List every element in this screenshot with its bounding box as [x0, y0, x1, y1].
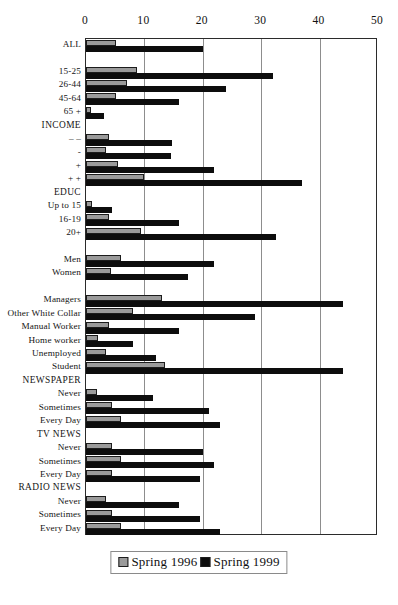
legend-item: Spring 1999 — [201, 554, 280, 570]
category-label: NEWSPAPER — [23, 376, 81, 385]
x-tick-label: 20 — [196, 14, 208, 26]
category-label: 65 + — [64, 107, 81, 116]
bar-s1999 — [86, 355, 156, 361]
category-label: Up to 15 — [48, 201, 81, 210]
x-tick-label: 0 — [82, 14, 88, 26]
category-label: RADIO NEWS — [18, 483, 81, 492]
category-label: ALL — [63, 40, 81, 49]
category-axis-labels: ALL15-2526-4445-6465 +INCOME– –-++ +EDUC… — [0, 38, 83, 535]
category-label: Home worker — [29, 336, 81, 345]
category-label: + + — [68, 174, 81, 183]
plot-area — [85, 38, 377, 535]
bar-s1999 — [86, 220, 179, 226]
bar-s1999 — [86, 449, 203, 455]
bars-layer — [86, 39, 376, 534]
bar-s1999 — [86, 167, 214, 173]
category-label: Men — [64, 255, 81, 264]
bar-s1999 — [86, 395, 153, 401]
bar-s1999 — [86, 476, 200, 482]
category-label: + — [76, 161, 81, 170]
bar-s1999 — [86, 462, 214, 468]
bar-s1999 — [86, 301, 343, 307]
category-label: Manual Worker — [22, 322, 81, 331]
legend-item: Spring 1996 — [118, 554, 197, 570]
legend-swatch — [201, 557, 211, 567]
bar-s1999 — [86, 86, 226, 92]
category-label: Student — [52, 362, 81, 371]
category-label: Every Day — [40, 524, 81, 533]
category-label: Sometimes — [39, 403, 81, 412]
category-label: Never — [58, 497, 81, 506]
category-label: Managers — [44, 295, 81, 304]
category-label: INCOME — [42, 121, 81, 130]
bar-s1999 — [86, 314, 255, 320]
x-tick-label: 10 — [137, 14, 149, 26]
category-label: – – — [69, 134, 81, 143]
bar-s1999 — [86, 274, 188, 280]
category-label: Other White Collar — [8, 309, 81, 318]
bar-s1999 — [86, 99, 179, 105]
legend-label: Spring 1996 — [131, 554, 197, 570]
bar-s1999 — [86, 408, 209, 414]
category-label: Sometimes — [39, 510, 81, 519]
category-label: 26-44 — [59, 80, 81, 89]
bar-s1999 — [86, 261, 214, 267]
category-label: 20+ — [66, 228, 81, 237]
bar-s1999 — [86, 207, 112, 213]
category-label: Never — [58, 443, 81, 452]
bar-s1999 — [86, 153, 171, 159]
bar-s1999 — [86, 516, 200, 522]
category-label: EDUC — [54, 188, 81, 197]
chart-legend: Spring 1996Spring 1999 — [110, 551, 287, 574]
category-label: 15-25 — [59, 67, 81, 76]
legend-label: Spring 1999 — [214, 554, 280, 570]
bar-s1999 — [86, 234, 276, 240]
category-label: Women — [52, 268, 81, 277]
x-tick-label: 30 — [254, 14, 266, 26]
category-label: Every Day — [40, 416, 81, 425]
x-tick-label: 40 — [313, 14, 325, 26]
category-label: Sometimes — [39, 457, 81, 466]
bar-s1999 — [86, 46, 203, 52]
category-label: 16-19 — [59, 215, 81, 224]
bar-s1999 — [86, 140, 172, 146]
category-label: Never — [58, 389, 81, 398]
category-label: - — [78, 148, 81, 157]
x-tick-label: 50 — [371, 14, 383, 26]
category-label: TV NEWS — [37, 430, 81, 439]
bar-s1999 — [86, 113, 104, 119]
category-label: Unemployed — [32, 349, 81, 358]
bar-s1999 — [86, 341, 133, 347]
x-axis-tick-labels: 01020304050 — [0, 14, 398, 32]
bar-s1999 — [86, 529, 220, 535]
category-label: 45-64 — [59, 94, 81, 103]
bar-s1999 — [86, 368, 343, 374]
category-label: Every Day — [40, 470, 81, 479]
bar-s1999 — [86, 502, 179, 508]
bar-s1999 — [86, 180, 302, 186]
bar-s1999 — [86, 328, 179, 334]
bar-s1999 — [86, 422, 220, 428]
bar-s1999 — [86, 73, 273, 79]
legend-swatch — [118, 557, 128, 567]
bar-chart: 01020304050 ALL15-2526-4445-6465 +INCOME… — [0, 0, 398, 605]
